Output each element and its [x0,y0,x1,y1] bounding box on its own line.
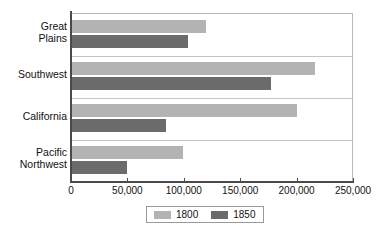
bar-group-pacific-northwest [71,140,352,182]
bar-southwest-1850 [71,77,271,90]
category-label-great-plains: Great Plains [0,20,67,44]
bar-great-plains-1800 [71,20,206,33]
bar-southwest-1800 [71,62,315,75]
category-label-southwest: Southwest [0,68,67,80]
x-tick-mark-5 [353,178,354,182]
x-tick-label-1: 50,000 [112,185,143,196]
bar-group-great-plains [71,14,352,56]
bar-chart: Great Plains Southwest California Pacifi… [0,0,385,235]
bar-great-plains-1850 [71,35,188,48]
bar-group-southwest [71,56,352,98]
category-label-pacific-northwest: Pacific Northwest [0,146,67,170]
category-label-california: California [0,110,67,122]
legend-item-1800: 1800 [154,209,198,220]
legend-item-1850: 1850 [211,209,255,220]
legend-swatch-1800 [154,211,171,219]
legend: 1800 1850 [146,206,264,223]
legend-swatch-1850 [211,211,228,219]
legend-label-1800: 1800 [176,209,198,220]
x-axis [70,181,354,183]
bar-california-1800 [71,104,297,117]
x-tick-label-0: 0 [68,185,74,196]
bar-pacific-northwest-1800 [71,146,183,159]
x-tick-mark-1 [127,178,128,182]
x-tick-mark-2 [184,178,185,182]
x-tick-label-3: 150,000 [222,185,258,196]
bar-pacific-northwest-1850 [71,161,127,174]
x-tick-mark-3 [240,178,241,182]
bar-california-1850 [71,119,166,132]
bar-group-california [71,98,352,140]
plot-area [71,13,353,181]
x-tick-mark-0 [71,178,72,182]
legend-label-1850: 1850 [233,209,255,220]
x-tick-mark-4 [297,178,298,182]
x-tick-label-5: 250,000 [335,185,371,196]
y-axis [70,11,72,183]
x-tick-label-2: 100,000 [166,185,202,196]
x-tick-label-4: 200,000 [279,185,315,196]
